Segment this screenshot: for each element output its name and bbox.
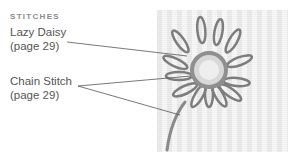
chain-stitch-leader-petal: [78, 76, 191, 86]
leader-lines: [0, 0, 293, 157]
lazy-daisy-leader: [67, 42, 187, 56]
chain-stitch-leader-stem: [78, 86, 180, 115]
